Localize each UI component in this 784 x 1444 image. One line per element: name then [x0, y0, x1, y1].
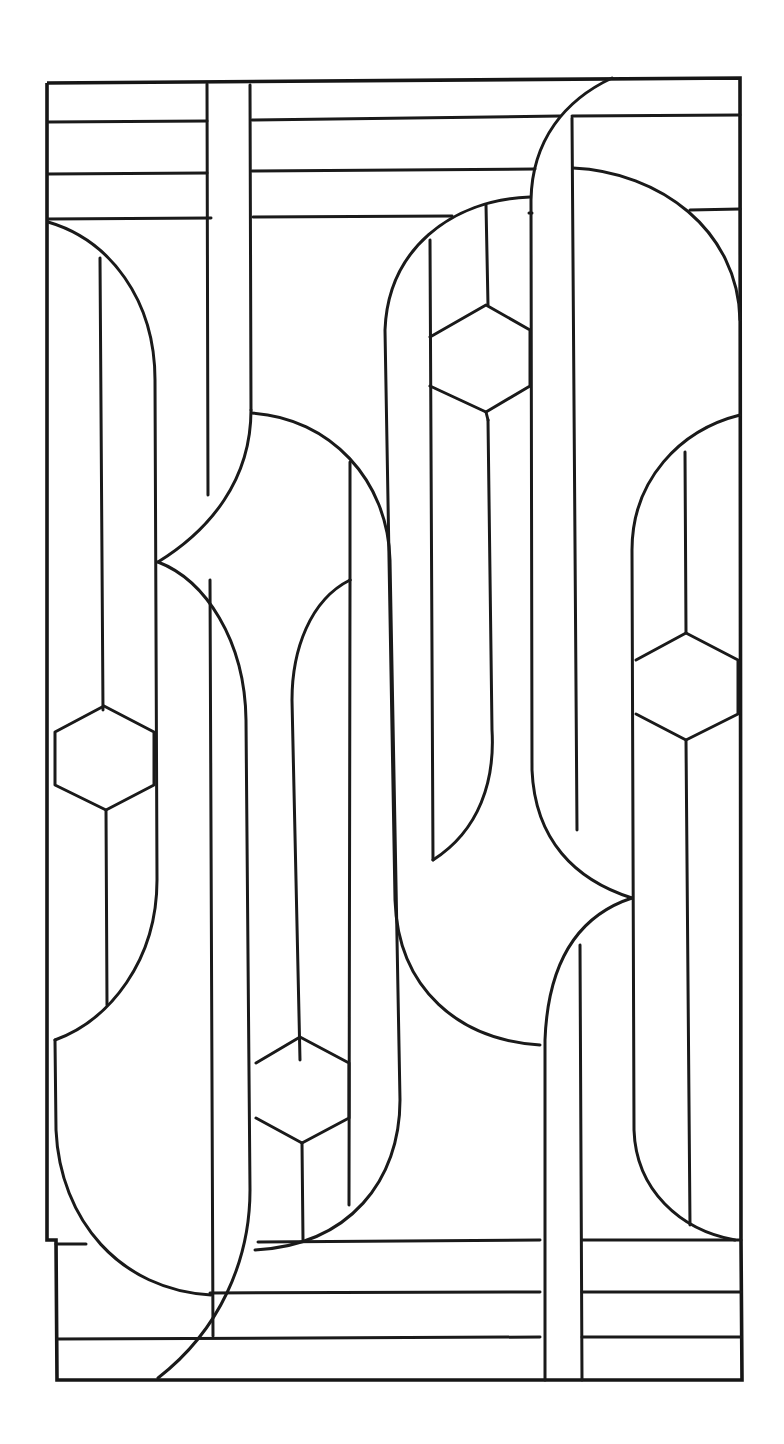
bottom-bands: [56, 1240, 741, 1339]
center-right-bulb: [385, 197, 540, 1045]
stained-glass-pattern: [0, 0, 784, 1444]
right-capsule: [632, 415, 740, 1240]
top-bands: [48, 115, 740, 219]
left-capsule: [48, 222, 211, 1295]
center-left-bulb: [158, 410, 400, 1378]
